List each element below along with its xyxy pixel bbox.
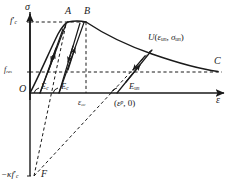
Ec1-sub: c (46, 85, 48, 91)
focal-line-1 (34, 24, 66, 176)
Eun-sub: un (134, 85, 139, 91)
softening-branch (86, 22, 218, 72)
point-label-F: F (41, 169, 47, 179)
Eun-reload-arrow (126, 65, 140, 82)
y-tick-label-fc: f′c (10, 16, 17, 26)
envelope-curve (30, 21, 218, 93)
epscc-sub: cc (81, 102, 85, 107)
point-label-C: C (214, 56, 221, 66)
modulus-label-Eun: Eun (129, 82, 139, 91)
kappa-fc-sub: c (16, 173, 18, 179)
unload-point-annotation: U(εun, σun) (148, 33, 184, 43)
sigma-axis-label: σ (25, 2, 30, 12)
epsilon-axis-label: ε (216, 95, 220, 105)
Ec2-sub: c (66, 85, 68, 91)
plastic-strain-annotation: (εp, 0) (114, 99, 135, 108)
y-tick-label-kappa-fc: −κf′c (1, 170, 18, 180)
point-label-A: A (65, 6, 71, 16)
y-tick-label-fres: fres (4, 66, 12, 75)
modulus-label-Ec-1: Ec (41, 82, 48, 91)
loop1-reload-arrow (48, 53, 55, 72)
origin-label: O (19, 84, 26, 94)
U-close: ) (181, 32, 184, 42)
ep-rest: , 0) (123, 98, 135, 108)
fres-sub: res (6, 69, 12, 74)
stress-strain-plot (0, 0, 232, 193)
loop1-unload-arrow (51, 48, 56, 62)
point-label-B: B (84, 6, 90, 16)
fc-sub: c (14, 19, 16, 25)
stress-strain-figure: σ ε O f′c fres −κf′c A B C F U(εun, σun)… (0, 0, 232, 193)
kappa-fc-base: −κf (1, 169, 14, 179)
Eun-unload-arrow (133, 56, 145, 70)
epscc-label: εcc (78, 99, 85, 108)
modulus-label-Ec-2: Ec (61, 82, 68, 91)
